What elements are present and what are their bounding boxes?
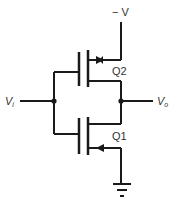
input-junction-dot bbox=[51, 98, 56, 103]
cmos-inverter-diagram: − V Q2 Vi Vo Q1 bbox=[0, 0, 175, 209]
input-label: Vi bbox=[5, 95, 14, 108]
supply-label: − V bbox=[112, 6, 129, 18]
transistor-q1: Q1 bbox=[54, 101, 127, 184]
transistor-q2: Q2 bbox=[54, 50, 127, 101]
q2-label: Q2 bbox=[112, 65, 127, 77]
q1-label: Q1 bbox=[112, 130, 127, 142]
q1-source-arrow-icon bbox=[96, 144, 104, 152]
output-label: Vo bbox=[157, 95, 168, 108]
ground-icon bbox=[113, 184, 131, 196]
